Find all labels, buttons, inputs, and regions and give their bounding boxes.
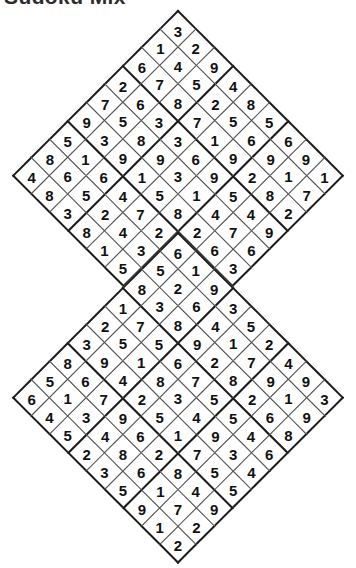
bottom-diamond-grid[interactable]: 6193524935264179198389282681756755462518…: [13, 232, 344, 563]
cell-digit: 2: [165, 532, 191, 558]
